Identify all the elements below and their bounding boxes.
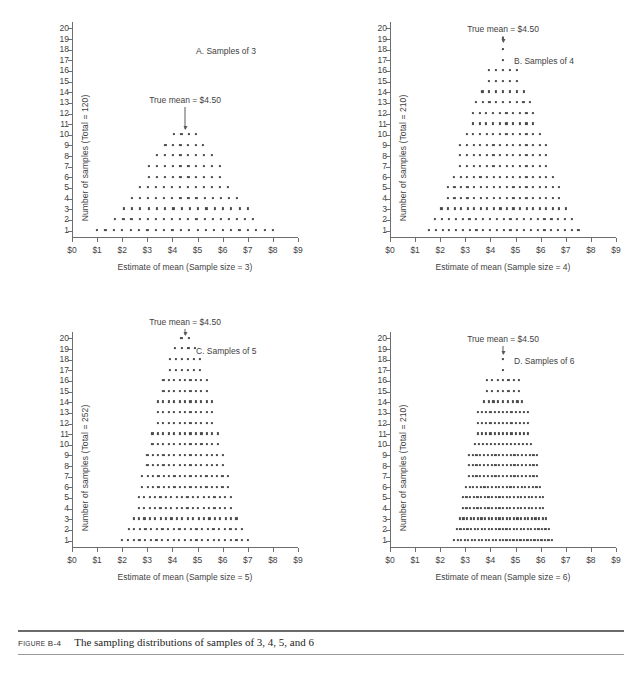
x-axis-tick-label: $7 bbox=[243, 245, 252, 255]
data-dot bbox=[214, 208, 216, 210]
data-dot bbox=[545, 176, 547, 178]
y-axis-tick-label: 8 bbox=[382, 151, 387, 161]
data-dot bbox=[498, 528, 500, 530]
data-dot bbox=[138, 518, 140, 520]
y-axis-tick-label: 13 bbox=[60, 407, 69, 417]
data-dot bbox=[235, 528, 237, 530]
data-dot bbox=[491, 454, 493, 456]
data-dot bbox=[149, 507, 151, 509]
data-dot bbox=[184, 432, 186, 434]
data-dot bbox=[513, 496, 515, 498]
data-dot bbox=[499, 176, 501, 178]
data-dot bbox=[205, 486, 207, 488]
data-dot bbox=[206, 411, 208, 413]
data-dot bbox=[147, 197, 149, 199]
data-dot bbox=[138, 539, 140, 541]
data-dot bbox=[510, 422, 512, 424]
data-dot bbox=[519, 165, 521, 167]
data-dot bbox=[149, 496, 151, 498]
data-dot bbox=[224, 528, 226, 530]
data-dot bbox=[494, 475, 496, 477]
data-dot bbox=[157, 432, 159, 434]
data-dot bbox=[152, 454, 154, 456]
data-dot bbox=[519, 422, 521, 424]
data-dot bbox=[557, 229, 559, 231]
x-axis-tick-label: $5 bbox=[511, 245, 520, 255]
data-dot bbox=[180, 337, 182, 339]
data-dot bbox=[494, 422, 496, 424]
data-dot bbox=[494, 443, 496, 445]
data-dot bbox=[532, 464, 534, 466]
x-axis-tick-label: $6 bbox=[218, 245, 227, 255]
x-axis-tick-label: $9 bbox=[293, 245, 302, 255]
data-dot bbox=[468, 475, 470, 477]
x-axis-line bbox=[390, 547, 616, 548]
data-dot bbox=[509, 496, 511, 498]
data-dot bbox=[465, 507, 467, 509]
data-dot bbox=[505, 122, 507, 124]
data-dot bbox=[489, 229, 491, 231]
data-dot bbox=[527, 507, 529, 509]
data-dot bbox=[532, 186, 534, 188]
data-dot bbox=[435, 229, 437, 231]
x-axis-tick bbox=[122, 238, 123, 242]
data-dot bbox=[476, 486, 478, 488]
data-dot bbox=[211, 422, 213, 424]
data-dot bbox=[127, 539, 129, 541]
data-dot bbox=[522, 101, 524, 103]
data-dot bbox=[456, 539, 458, 541]
panel-title: B. Samples of 4 bbox=[514, 56, 574, 66]
data-dot bbox=[227, 475, 229, 477]
data-dot bbox=[173, 379, 175, 381]
panel-title: D. Samples of 6 bbox=[514, 356, 574, 366]
data-dot bbox=[512, 144, 514, 146]
data-dot bbox=[473, 186, 475, 188]
data-dot bbox=[492, 112, 494, 114]
y-axis-tick-label: 16 bbox=[60, 65, 69, 75]
data-dot bbox=[211, 443, 213, 445]
data-dot bbox=[195, 528, 197, 530]
y-axis-tick-label: 16 bbox=[378, 65, 387, 75]
data-dot bbox=[536, 464, 538, 466]
x-axis-tick-label: $8 bbox=[268, 245, 277, 255]
data-dot bbox=[211, 186, 213, 188]
data-dot bbox=[523, 539, 525, 541]
data-dot bbox=[525, 475, 527, 477]
data-dot bbox=[189, 443, 191, 445]
data-dot bbox=[173, 133, 175, 135]
data-dot bbox=[491, 518, 493, 520]
data-dot bbox=[178, 411, 180, 413]
plot-area: 1234567891011121314151617181920$0$1$2$3$… bbox=[390, 332, 616, 548]
data-dot bbox=[152, 475, 154, 477]
data-dot bbox=[527, 528, 529, 530]
data-dot bbox=[492, 401, 494, 403]
data-dot bbox=[157, 475, 159, 477]
data-dot bbox=[502, 80, 504, 82]
y-axis-tick-label: 18 bbox=[378, 354, 387, 364]
data-dot bbox=[187, 337, 189, 339]
data-dot bbox=[520, 507, 522, 509]
data-dot bbox=[509, 91, 511, 93]
data-dot bbox=[193, 369, 195, 371]
data-dot bbox=[512, 133, 514, 135]
y-axis-tick-label: 9 bbox=[64, 450, 69, 460]
data-dot bbox=[181, 369, 183, 371]
data-dot bbox=[467, 539, 469, 541]
data-dot bbox=[184, 486, 186, 488]
data-dot bbox=[168, 379, 170, 381]
data-dot bbox=[509, 507, 511, 509]
data-dot bbox=[527, 496, 529, 498]
data-dot bbox=[506, 432, 508, 434]
data-dot bbox=[453, 176, 455, 178]
data-dot bbox=[532, 144, 534, 146]
data-dot bbox=[200, 443, 202, 445]
data-dot bbox=[164, 208, 166, 210]
y-axis-tick-label: 1 bbox=[382, 535, 387, 545]
data-dot bbox=[487, 507, 489, 509]
data-dot bbox=[213, 496, 215, 498]
data-dot bbox=[465, 133, 467, 135]
data-dot bbox=[428, 229, 430, 231]
data-dot bbox=[490, 443, 492, 445]
y-axis-tick-label: 5 bbox=[64, 182, 69, 192]
data-dot bbox=[455, 229, 457, 231]
